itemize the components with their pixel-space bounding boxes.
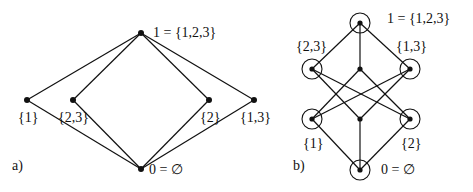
diagram-a-edges	[27, 33, 254, 169]
a-top-label: 1 = {1,2,3}	[153, 26, 216, 40]
a-node-1: {1}	[18, 111, 38, 125]
a-panel-label: a)	[12, 159, 23, 173]
a-bottom-label: 0 = ∅	[149, 163, 183, 177]
b-bottom-label: 0 = ∅	[381, 163, 415, 177]
a-node-23: {2,3}	[58, 111, 89, 125]
b-upper-right: {1,3}	[396, 40, 427, 54]
b-upper-left: {2,3}	[296, 40, 327, 54]
b-lower-left: {1}	[303, 137, 323, 151]
b-lower-right: {2}	[401, 137, 421, 151]
b-panel-label: b)	[293, 159, 305, 173]
diagram-a-nodes	[24, 30, 257, 172]
a-node-13: {1,3}	[240, 111, 271, 125]
b-top-label: 1 = {1,2,3}	[387, 12, 450, 26]
a-node-2: {2}	[200, 111, 220, 125]
